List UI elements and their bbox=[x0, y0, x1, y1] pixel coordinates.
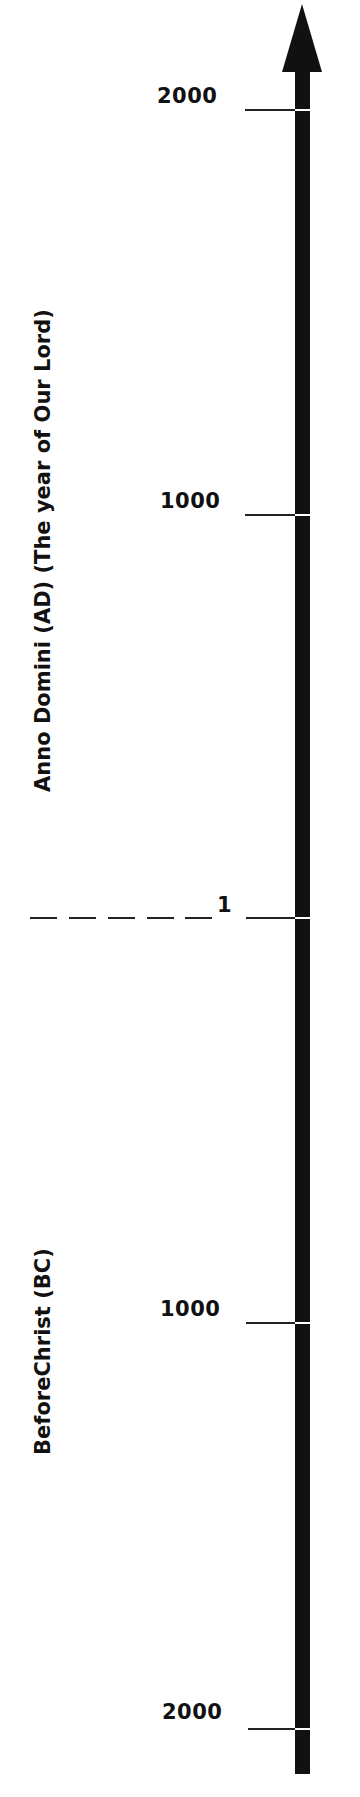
tick-gap bbox=[295, 1728, 310, 1730]
tick-mark-bc-1000 bbox=[246, 1322, 295, 1324]
tick-mark-bc-2000 bbox=[248, 1728, 295, 1730]
dash-segment bbox=[147, 917, 174, 919]
tick-label-year-1: 1 bbox=[217, 895, 232, 916]
era-label-ad: Anno Domini (AD) (The year of Our Lord) bbox=[33, 210, 54, 792]
era-label-bc: BeforeChrist (BC) bbox=[33, 1248, 54, 1455]
tick-mark-year-1 bbox=[246, 917, 295, 919]
tick-label-ad-1000: 1000 bbox=[160, 491, 220, 512]
tick-mark-ad-2000 bbox=[245, 109, 295, 111]
tick-gap bbox=[295, 1322, 310, 1324]
dash-segment bbox=[69, 917, 96, 919]
tick-label-bc-2000: 2000 bbox=[162, 1702, 222, 1723]
tick-label-bc-1000: 1000 bbox=[160, 1299, 220, 1320]
tick-gap bbox=[295, 514, 310, 516]
tick-mark-ad-1000 bbox=[245, 514, 295, 516]
tick-label-ad-2000: 2000 bbox=[157, 86, 217, 107]
dash-segment bbox=[108, 917, 135, 919]
dash-segment bbox=[185, 917, 212, 919]
tick-gap bbox=[295, 109, 310, 111]
tick-gap bbox=[295, 917, 310, 919]
dash-segment bbox=[30, 917, 57, 919]
